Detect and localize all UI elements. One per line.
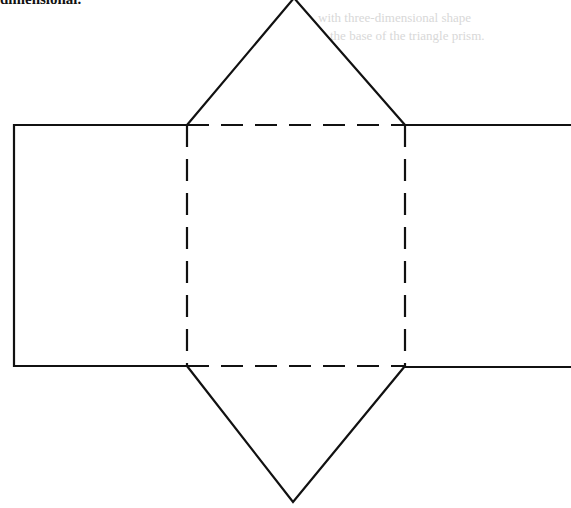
left-rectangle-face xyxy=(14,125,187,366)
top-triangle-face xyxy=(187,0,405,125)
fold-lines xyxy=(187,125,405,366)
prism-net-diagram xyxy=(0,0,571,508)
bottom-triangle-face xyxy=(187,366,405,502)
